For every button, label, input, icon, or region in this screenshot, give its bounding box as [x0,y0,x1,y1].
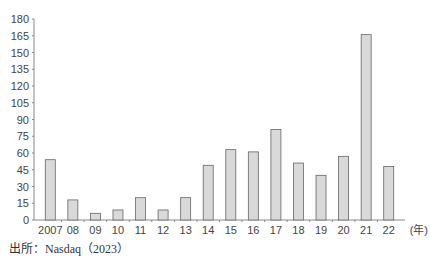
x-tick-label: 18 [292,224,304,236]
x-tick-label: 11 [135,224,146,236]
y-tick-label: 90 [17,114,29,126]
bar [158,210,168,220]
y-tick-label: 60 [17,147,29,159]
y-tick-label: 105 [11,97,29,109]
bar [45,160,55,220]
bar [339,156,349,220]
bar [271,130,281,220]
bar [226,150,236,220]
x-tick-label: 09 [89,224,101,236]
bar [384,166,394,220]
bar [248,152,258,220]
x-tick-label: 2007 [38,224,62,236]
y-tick-label: 165 [11,30,29,42]
bar [361,35,371,220]
x-tick-label: 15 [225,224,237,236]
bar [181,198,191,220]
x-tick-label: 16 [247,224,259,236]
x-tick-label: 08 [67,224,79,236]
bar-chart: 0153045607590105120135150165180200708091… [0,0,430,260]
x-tick-label: 17 [270,224,282,236]
bar [68,200,78,220]
y-tick-label: 45 [17,164,29,176]
bar [90,213,100,220]
y-tick-label: 15 [17,197,29,209]
x-axis-label: (年) [410,223,428,236]
y-tick-label: 30 [17,181,29,193]
x-tick-label: 13 [180,224,192,236]
x-tick-label: 21 [360,224,372,236]
x-tick-label: 12 [157,224,169,236]
x-tick-label: 20 [337,224,349,236]
bar [136,198,146,220]
y-tick-label: 0 [23,214,29,226]
bar [113,210,123,220]
bar [293,163,303,220]
x-tick-label: 22 [383,224,395,236]
y-tick-label: 180 [11,13,29,25]
source-note: 出所：Nasdaq（2023） [9,239,129,257]
x-tick-label: 10 [112,224,124,236]
y-tick-label: 135 [11,63,29,75]
y-tick-label: 75 [17,130,29,142]
x-tick-label: 19 [315,224,327,236]
y-tick-label: 120 [11,80,29,92]
bar [203,165,213,220]
bar [316,175,326,220]
y-tick-label: 150 [11,47,29,59]
x-tick-label: 14 [202,224,214,236]
